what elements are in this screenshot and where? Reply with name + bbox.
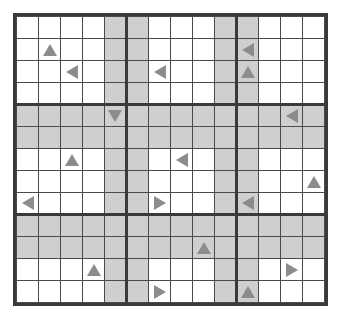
grid-cell[interactable] <box>17 237 39 259</box>
grid-cell[interactable] <box>39 193 61 215</box>
grid-cell[interactable] <box>149 17 171 39</box>
grid-cell[interactable] <box>61 61 83 83</box>
grid-cell[interactable] <box>237 127 259 149</box>
grid-cell[interactable] <box>127 105 149 127</box>
grid-cell[interactable] <box>39 215 61 237</box>
grid-cell[interactable] <box>215 171 237 193</box>
grid-cell[interactable] <box>237 61 259 83</box>
grid-cell[interactable] <box>193 281 215 303</box>
grid-cell[interactable] <box>303 105 325 127</box>
grid-cell[interactable] <box>83 105 105 127</box>
grid-cell[interactable] <box>105 83 127 105</box>
grid-cell[interactable] <box>237 281 259 303</box>
grid-cell[interactable] <box>61 17 83 39</box>
grid-cell[interactable] <box>215 237 237 259</box>
grid-cell[interactable] <box>259 17 281 39</box>
grid-cell[interactable] <box>171 105 193 127</box>
grid-cell[interactable] <box>17 39 39 61</box>
grid-cell[interactable] <box>171 149 193 171</box>
grid-cell[interactable] <box>127 17 149 39</box>
grid-cell[interactable] <box>171 61 193 83</box>
grid-cell[interactable] <box>39 149 61 171</box>
grid-cell[interactable] <box>83 61 105 83</box>
grid-cell[interactable] <box>193 105 215 127</box>
grid-cell[interactable] <box>105 193 127 215</box>
grid-cell[interactable] <box>171 127 193 149</box>
grid-cell[interactable] <box>61 237 83 259</box>
grid-cell[interactable] <box>303 127 325 149</box>
grid-cell[interactable] <box>105 281 127 303</box>
grid-cell[interactable] <box>281 61 303 83</box>
grid-cell[interactable] <box>149 83 171 105</box>
grid-cell[interactable] <box>281 83 303 105</box>
grid-cell[interactable] <box>149 259 171 281</box>
grid-cell[interactable] <box>171 259 193 281</box>
grid-cell[interactable] <box>193 215 215 237</box>
grid-cell[interactable] <box>215 39 237 61</box>
grid-cell[interactable] <box>83 83 105 105</box>
grid-cell[interactable] <box>127 281 149 303</box>
grid-cell[interactable] <box>149 39 171 61</box>
grid-cell[interactable] <box>171 83 193 105</box>
grid-cell[interactable] <box>281 149 303 171</box>
grid-cell[interactable] <box>127 61 149 83</box>
grid-cell[interactable] <box>215 149 237 171</box>
grid-cell[interactable] <box>17 215 39 237</box>
grid-cell[interactable] <box>39 83 61 105</box>
grid-cell[interactable] <box>193 61 215 83</box>
grid-cell[interactable] <box>61 105 83 127</box>
grid-cell[interactable] <box>149 237 171 259</box>
grid-cell[interactable] <box>17 17 39 39</box>
grid-cell[interactable] <box>259 193 281 215</box>
grid-cell[interactable] <box>193 193 215 215</box>
grid-cell[interactable] <box>171 237 193 259</box>
grid-cell[interactable] <box>149 105 171 127</box>
grid-cell[interactable] <box>17 61 39 83</box>
grid-cell[interactable] <box>171 17 193 39</box>
grid-cell[interactable] <box>105 215 127 237</box>
grid-cell[interactable] <box>83 259 105 281</box>
grid-cell[interactable] <box>83 171 105 193</box>
grid-cell[interactable] <box>61 83 83 105</box>
grid-cell[interactable] <box>259 215 281 237</box>
grid-cell[interactable] <box>171 171 193 193</box>
grid-cell[interactable] <box>39 105 61 127</box>
grid-cell[interactable] <box>303 61 325 83</box>
grid-cell[interactable] <box>39 127 61 149</box>
grid-cell[interactable] <box>149 171 171 193</box>
grid-cell[interactable] <box>127 215 149 237</box>
grid-cell[interactable] <box>237 259 259 281</box>
grid-cell[interactable] <box>105 105 127 127</box>
grid-cell[interactable] <box>61 259 83 281</box>
grid-cell[interactable] <box>17 259 39 281</box>
grid-cell[interactable] <box>149 61 171 83</box>
grid-cell[interactable] <box>215 193 237 215</box>
grid-cell[interactable] <box>171 39 193 61</box>
grid-cell[interactable] <box>303 149 325 171</box>
grid-cell[interactable] <box>127 127 149 149</box>
grid-cell[interactable] <box>127 171 149 193</box>
grid-cell[interactable] <box>171 215 193 237</box>
grid-cell[interactable] <box>83 149 105 171</box>
grid-cell[interactable] <box>281 193 303 215</box>
grid-cell[interactable] <box>17 127 39 149</box>
grid-cell[interactable] <box>127 259 149 281</box>
grid-cell[interactable] <box>193 259 215 281</box>
grid-cell[interactable] <box>237 171 259 193</box>
grid-cell[interactable] <box>83 215 105 237</box>
grid-cell[interactable] <box>149 215 171 237</box>
grid-cell[interactable] <box>39 17 61 39</box>
grid-cell[interactable] <box>17 149 39 171</box>
grid-cell[interactable] <box>259 149 281 171</box>
grid-cell[interactable] <box>281 17 303 39</box>
grid-cell[interactable] <box>215 259 237 281</box>
grid-cell[interactable] <box>215 215 237 237</box>
puzzle-grid[interactable] <box>16 16 325 303</box>
grid-cell[interactable] <box>237 193 259 215</box>
grid-cell[interactable] <box>61 193 83 215</box>
grid-cell[interactable] <box>105 259 127 281</box>
grid-cell[interactable] <box>105 61 127 83</box>
grid-cell[interactable] <box>61 281 83 303</box>
grid-cell[interactable] <box>281 127 303 149</box>
grid-cell[interactable] <box>237 105 259 127</box>
